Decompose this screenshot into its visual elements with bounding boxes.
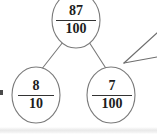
node-ellipse-top	[52, 0, 100, 48]
fraction-tree-graphic	[0, 0, 157, 140]
edge-top-to-left	[41, 42, 63, 70]
node-ellipse-right	[87, 67, 135, 123]
page-separator-band	[0, 127, 157, 134]
edge-top-to-right	[89, 42, 107, 70]
left-edge-clipped-mark	[0, 90, 3, 95]
node-ellipse-left	[12, 67, 60, 123]
tree-node-outlines	[12, 0, 135, 123]
arrowhead-left-pointer-icon	[124, 33, 157, 63]
diagram-canvas: 87 100 8 10 7 100	[0, 0, 157, 140]
